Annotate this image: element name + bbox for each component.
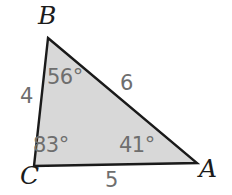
side-length-ba: 6 [120, 73, 133, 94]
angle-measure-c: 83° [33, 135, 69, 156]
vertex-label-a: A [199, 156, 217, 181]
geometry-figure: B C A 56° 83° 41° 4 6 5 [0, 0, 232, 195]
angle-measure-a: 41° [119, 135, 155, 156]
vertex-label-b: B [38, 3, 56, 28]
angle-measure-b: 56° [47, 67, 83, 88]
vertex-label-c: C [20, 163, 39, 188]
side-length-ca: 5 [105, 170, 118, 191]
side-length-bc: 4 [20, 86, 33, 107]
